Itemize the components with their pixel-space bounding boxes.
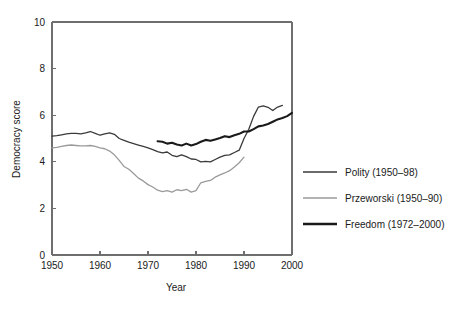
legend-label: Polity (1950–98) (345, 167, 418, 178)
legend-label: Przeworski (1950–90) (345, 193, 442, 204)
chart-figure: 195019601970198019902000 0246810 Year De… (0, 0, 457, 310)
x-axis-title: Year (166, 282, 187, 293)
x-tick-label: 1990 (233, 260, 256, 271)
democracy-score-line-chart: 195019601970198019902000 0246810 Year De… (0, 0, 457, 310)
y-tick-label: 10 (34, 17, 46, 28)
x-tick-label: 2000 (281, 260, 304, 271)
x-tick-label: 1950 (41, 260, 64, 271)
y-tick-label: 8 (39, 63, 45, 74)
y-tick-label: 2 (39, 203, 45, 214)
x-tick-label: 1960 (89, 260, 112, 271)
legend-label: Freedom (1972–2000) (345, 219, 445, 230)
y-tick-label: 0 (39, 250, 45, 261)
y-tick-label: 4 (39, 156, 45, 167)
x-tick-label: 1980 (185, 260, 208, 271)
y-tick-label: 6 (39, 110, 45, 121)
y-axis-title: Democracy score (11, 100, 22, 178)
x-tick-label: 1970 (137, 260, 160, 271)
